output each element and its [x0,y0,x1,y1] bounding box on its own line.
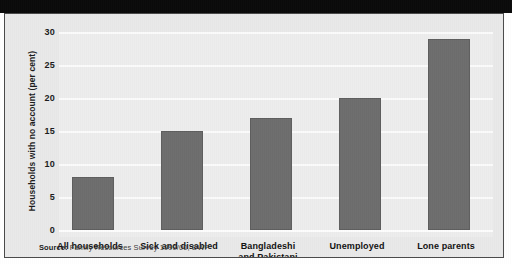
x-label-line: Lone parents [393,241,499,252]
x-label-lone-parents: Lone parents [393,241,499,252]
chart-figure: Access to financial services Households … [0,0,512,264]
bar-all-households [72,177,114,230]
bar-lone-parents [428,39,470,231]
bar-bangladeshi-pakistani [250,118,292,230]
y-tick-label: 20 [11,93,55,103]
y-tick-label: 15 [11,126,55,136]
gridline-0 [59,230,493,232]
bar-unemployed [339,98,381,230]
y-tick-label: 0 [11,225,55,235]
source-label: Source: [39,243,68,252]
bar-sick-and-disabled [161,131,203,230]
masthead-bar: Access to financial services [0,0,512,13]
x-label-line: and Pakistani [215,252,321,259]
source-note: Source: Family Resources Survey 1999/00,… [39,243,210,252]
chart-panel: Households with no account (per cent) 30… [4,13,504,258]
y-tick-label: 25 [11,60,55,70]
y-axis-ticks: 30 25 20 15 10 5 0 [5,32,55,237]
y-tick-label: 10 [11,159,55,169]
y-tick-label: 5 [11,192,55,202]
plot-area [59,32,493,237]
y-tick-label: 30 [11,27,55,37]
masthead-title-text: Access to financial services [30,0,262,4]
gridline-30 [59,32,493,34]
source-text: Family Resources Survey 1999/00, DWP [68,243,210,252]
